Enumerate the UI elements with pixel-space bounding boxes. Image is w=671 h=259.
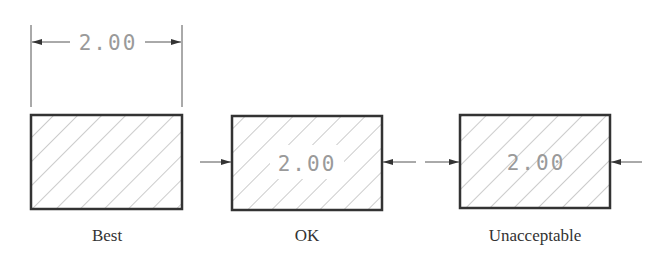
section-rect [31,115,182,209]
panel-ok: 2.00 [200,116,416,210]
panel-unacceptable: 2.00 [425,115,642,208]
label-best: Best [7,226,207,246]
dimension-text: 2.00 [507,151,566,175]
label-ok: OK [207,226,407,246]
panel-best: 2.00 [31,25,182,209]
label-unacceptable: Unacceptable [435,226,635,246]
dimension-text: 2.00 [278,152,337,176]
dimension-text: 2.00 [79,31,138,55]
dimension-placement-diagram: 2.00 2.00 2.00 [0,0,671,259]
